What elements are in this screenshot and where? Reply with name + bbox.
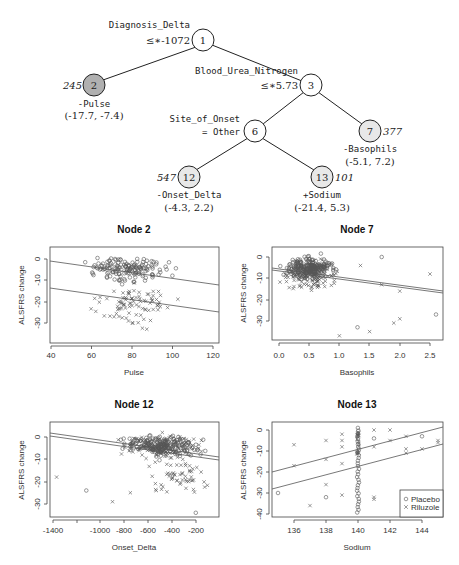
y-tick-label: -10 xyxy=(255,445,264,457)
y-tick-label: -30 xyxy=(33,317,42,329)
y-axis: 0 -10 -20 -30 ALSFRS change xyxy=(17,256,47,329)
split-variable: Site_of_Onset xyxy=(170,114,240,124)
x-tick-label: -600 xyxy=(140,526,157,535)
split-variable: Blood_Urea_Nitrogen xyxy=(195,66,298,76)
x-axis: 40 60 80 100 120 Pulse xyxy=(47,346,221,377)
y-tick-label: -30 xyxy=(255,487,264,499)
x-tick-label: 1.0 xyxy=(333,351,345,360)
y-tick-label: -10 xyxy=(33,274,42,286)
x-tick-label: 140 xyxy=(351,526,365,535)
y-tick-label: 0 xyxy=(255,254,264,259)
plot-title: Node 13 xyxy=(338,399,377,410)
x-tick-label: 120 xyxy=(206,351,220,360)
x-tick-label: 100 xyxy=(166,351,180,360)
node-model: -Pulse xyxy=(78,99,111,109)
node-interval: (-21.4, 5.3) xyxy=(294,202,350,213)
y-tick-label: 0 xyxy=(33,434,42,439)
y-tick-label: -20 xyxy=(33,476,42,488)
legend-riluzole: Riluzole xyxy=(411,503,440,512)
node-sample-size: 377 xyxy=(383,126,403,137)
split-rule: ≤∗5.73 xyxy=(261,80,298,91)
tree-node-3: 3 Blood_Urea_Nitrogen ≤∗5.73 xyxy=(195,66,322,96)
node-sample-size: 547 xyxy=(157,172,177,183)
y-tick-label: -10 xyxy=(33,453,42,465)
node-id: 3 xyxy=(308,80,314,91)
tree-node-13: 13 101 +Sodium (-21.4, 5.3) xyxy=(294,166,354,213)
node-interval: (-5.1, 7.2) xyxy=(345,156,394,167)
y-tick-label: -30 xyxy=(255,315,264,327)
x-tick-label: -1000 xyxy=(90,526,111,535)
regression-tree: 1 Diagnosis_Delta ≤∗-1072 2 245 -Pulse (… xyxy=(62,20,403,213)
y-axis-label: ALSFRS change xyxy=(239,263,248,323)
y-tick-label: -10 xyxy=(255,272,264,284)
tree-node-12: 12 547 -Onset_Delta (-4.3, 2.2) xyxy=(156,166,221,213)
node-model: -Basophils xyxy=(343,144,397,154)
fit-line-placebo xyxy=(50,261,219,285)
x-axis-label: Sodium xyxy=(343,543,370,552)
x-tick-label: 2.5 xyxy=(424,351,436,360)
x-axis-label: Onset_Delta xyxy=(112,543,157,552)
y-tick-label: 0 xyxy=(33,256,42,261)
node-model: -Onset_Delta xyxy=(156,190,221,200)
legend: Placebo Riluzole xyxy=(400,490,443,517)
x-tick-label: 1.5 xyxy=(363,351,375,360)
x-tick-label: 80 xyxy=(128,351,137,360)
scatter-node-13: Node 13 Placebo Riluzole 136 138 140 142… xyxy=(239,399,443,552)
y-axis: 0 -10 -20 -30 ALSFRS change xyxy=(17,434,47,510)
data-points xyxy=(278,252,438,338)
y-axis: 0 -10 -20 -30 ALSFRS change xyxy=(239,254,269,327)
tree-node-2: 2 245 -Pulse (-17.7, -7.4) xyxy=(62,74,124,121)
x-tick-label: -400 xyxy=(164,526,181,535)
y-axis-label: ALSFRS change xyxy=(239,440,248,500)
x-axis: 0.0 0.5 1.0 1.5 2.0 2.5 Basophils xyxy=(273,343,436,377)
x-tick-label: 0.0 xyxy=(273,351,285,360)
split-variable: Diagnosis_Delta xyxy=(109,20,190,30)
y-tick-label: -20 xyxy=(33,296,42,308)
split-rule: = Other xyxy=(202,127,241,137)
x-axis-label: Pulse xyxy=(124,368,145,377)
node-id: 12 xyxy=(183,172,196,183)
y-axis: 0 -10 -20 -30 -40 ALSFRS change xyxy=(239,427,269,520)
node-model: +Sodium xyxy=(303,190,341,200)
x-tick-label: 136 xyxy=(287,526,301,535)
scatter-node-2: Node 2 40 60 80 100 120 Pulse 0 -10 xyxy=(17,224,220,377)
node-interval: (-17.7, -7.4) xyxy=(64,110,123,121)
edge-3-6 xyxy=(263,92,304,124)
x-tick-label: -200 xyxy=(188,526,205,535)
x-tick-label: 2.0 xyxy=(394,351,406,360)
node-id: 1 xyxy=(200,35,206,46)
node-sample-size: 245 xyxy=(62,80,82,91)
plot-frame xyxy=(50,247,219,343)
y-tick-label: 0 xyxy=(255,427,264,432)
y-tick-label: -40 xyxy=(255,508,264,520)
tree-node-7: 7 377 -Basophils (-5.1, 7.2) xyxy=(343,120,403,167)
y-axis-label: ALSFRS change xyxy=(17,265,26,325)
y-axis-label: ALSFRS change xyxy=(17,440,26,500)
x-tick-label: 138 xyxy=(319,526,333,535)
node-id: 6 xyxy=(252,126,258,137)
x-tick-label: -800 xyxy=(116,526,133,535)
fit-line-riluzole xyxy=(272,270,443,293)
x-tick-label: 0.5 xyxy=(303,351,315,360)
y-tick-label: -20 xyxy=(255,466,264,478)
plot-title: Node 12 xyxy=(115,399,154,410)
node-sample-size: 101 xyxy=(335,172,354,183)
x-axis: -1400 -1000 -800 -600 -400 -200 Onset_De… xyxy=(43,520,205,552)
node-interval: (-4.3, 2.2) xyxy=(164,202,213,213)
x-tick-label: 142 xyxy=(383,526,397,535)
y-tick-label: -20 xyxy=(255,294,264,306)
scatter-node-7: Node 7 0.0 0.5 1.0 1.5 2.0 2.5 Basophils xyxy=(239,224,443,377)
tree-node-6: 6 Site_of_Onset = Other xyxy=(170,114,266,142)
node-id: 7 xyxy=(367,126,373,137)
tree-node-1: 1 Diagnosis_Delta ≤∗-1072 xyxy=(109,20,214,51)
x-tick-label: 40 xyxy=(47,351,56,360)
scatter-node-12: Node 12 -1400 -1000 -800 -600 -400 -200 … xyxy=(17,399,219,552)
node-id: 13 xyxy=(316,172,329,183)
plot-title: Node 7 xyxy=(340,224,374,235)
x-tick-label: 144 xyxy=(415,526,429,535)
x-axis: 136 138 140 142 144 Sodium xyxy=(287,520,429,552)
edge-6-13 xyxy=(262,138,314,170)
edge-3-7 xyxy=(318,92,362,124)
split-rule: ≤∗-1072 xyxy=(146,35,190,46)
figure: 1 Diagnosis_Delta ≤∗-1072 2 245 -Pulse (… xyxy=(0,0,459,565)
